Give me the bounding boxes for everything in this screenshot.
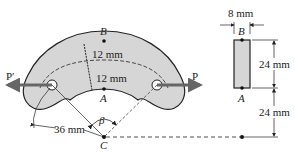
section-point-a bbox=[240, 86, 244, 90]
section-label-a: A bbox=[237, 92, 245, 104]
curved-bar-diagram: P′ P 12 mm 12 mm B A β 36 mm C B A 8 mm … bbox=[0, 0, 295, 152]
load-label-right: P bbox=[192, 70, 198, 82]
dim-section-width: 8 mm bbox=[228, 7, 254, 19]
dim-section-height: 24 mm bbox=[259, 58, 290, 70]
dim-thick-outer: 12 mm bbox=[92, 48, 123, 60]
point-a-marker bbox=[102, 87, 106, 91]
load-label-left: P′ bbox=[6, 70, 15, 82]
dim-inner-radius: 36 mm bbox=[54, 123, 85, 135]
point-c-label: C bbox=[100, 139, 108, 151]
cross-section bbox=[234, 40, 250, 88]
radius-leader bbox=[84, 130, 104, 137]
dim-thick-inner: 12 mm bbox=[96, 72, 127, 84]
dim-section-offset: 24 mm bbox=[259, 106, 290, 118]
section-point-b bbox=[240, 38, 244, 42]
radius-dim-line bbox=[34, 125, 56, 128]
beta-label: β bbox=[98, 114, 105, 126]
point-b-label: B bbox=[100, 25, 107, 37]
section-point-c bbox=[240, 135, 244, 139]
point-b-marker bbox=[102, 39, 106, 43]
point-a-label: A bbox=[99, 92, 107, 104]
section-label-b: B bbox=[238, 25, 245, 37]
